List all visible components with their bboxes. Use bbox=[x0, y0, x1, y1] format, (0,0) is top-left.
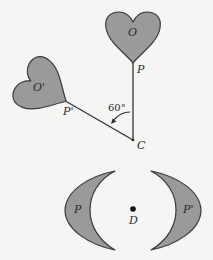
label-d: D bbox=[128, 214, 138, 227]
point-c bbox=[132, 139, 135, 142]
label-crescent-right: P' bbox=[182, 203, 193, 216]
heart-o-prime bbox=[8, 52, 146, 163]
angle-arc bbox=[113, 112, 130, 121]
label-o: O bbox=[128, 26, 137, 39]
label-p-prime: P' bbox=[62, 105, 73, 118]
point-d bbox=[130, 206, 136, 212]
label-angle: 60° bbox=[108, 102, 126, 113]
label-crescent-left: P bbox=[73, 203, 82, 216]
crescent-right bbox=[151, 171, 201, 250]
label-p: P bbox=[136, 63, 145, 76]
label-c: C bbox=[137, 139, 146, 152]
crescent-left bbox=[65, 171, 115, 250]
rotation-symmetry-diagram: O P O' P' 60° C P P' D bbox=[0, 0, 213, 260]
label-o-prime: O' bbox=[33, 81, 45, 94]
